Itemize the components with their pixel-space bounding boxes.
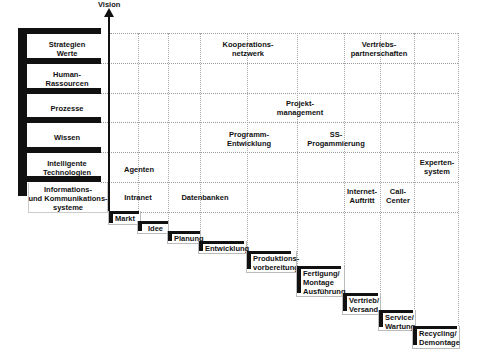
cell-datenbanken: Datenbanken (181, 193, 228, 202)
cell-kooperationsnetzwerk: Kooperations- netzwerk (223, 40, 274, 58)
cell-line: management (277, 108, 323, 117)
axis-label-vision: Vision (98, 0, 120, 9)
grid-line (168, 33, 169, 233)
row-bar (18, 176, 101, 182)
grid-line (140, 212, 458, 213)
cell-line: system (420, 167, 455, 176)
step-label-line: Service/ (385, 313, 415, 322)
row-label-prozesse: Prozesse (27, 104, 107, 113)
row-label-informations-kommunikationssysteme: Informations- und Kommunikations- system… (24, 185, 112, 212)
row-label-human-ressourcen: Human- Rassourcen (27, 70, 107, 88)
step-label: Service/ Wartung (385, 313, 415, 331)
cell-ss-programmierung: SS- Progammierung (307, 130, 365, 148)
step-label: Vertrieb/ Versand (349, 296, 379, 314)
step-label: Entwicklung (205, 244, 249, 253)
cell-internet-auftritt: Internet- Auftritt (347, 187, 377, 205)
cell-line: Kooperations- (223, 40, 274, 49)
arrow-up-icon (104, 8, 114, 17)
cell-line: partnerschaften (351, 49, 408, 58)
grid-line (101, 182, 458, 183)
step-vertrieb-versand: Vertrieb/ Versand (342, 293, 381, 315)
cell-programm-entwicklung: Programm- Entwicklung (227, 130, 271, 148)
cell-line: Call- (386, 187, 410, 196)
step-fertigung-montage: Fertigung/ Montage Ausführung (296, 266, 345, 297)
grid-line (380, 33, 381, 310)
step-recycling-demontage: Recycling/ Demontage (412, 326, 460, 349)
step-label-line: Demontage (419, 338, 460, 347)
step-label-line: Montage (303, 278, 346, 287)
row-label-intelligente-technologien: Intelligente Technologien (27, 159, 107, 177)
step-label-line: Ausführung (303, 287, 346, 296)
grid-line (101, 122, 458, 123)
row-label-line: Informations- (24, 185, 112, 194)
step-produktionsvorbereitung: Produktions- vorbereitung (246, 251, 297, 273)
row-bar (18, 58, 101, 64)
step-label-line: Recycling/ (419, 329, 460, 338)
cell-line: Experten- (420, 158, 455, 167)
step-label-line: Versand (349, 305, 379, 314)
step-label-line: Vertrieb/ (349, 296, 379, 305)
step-idee: Idee (137, 221, 169, 234)
row-label-line: Prozesse (27, 104, 107, 113)
step-label: Idee (148, 224, 163, 233)
grid-line (297, 33, 298, 268)
grid-line (458, 33, 459, 348)
row-bar (18, 28, 101, 34)
cell-call-center: Call- Center (386, 187, 410, 205)
row-label-wissen: Wissen (27, 133, 107, 142)
grid-line (200, 33, 201, 243)
cell-line: Intranet (124, 193, 152, 202)
grid-line (101, 93, 458, 94)
step-entwicklung: Entwicklung (198, 241, 247, 254)
grid-line (414, 33, 415, 327)
cell-expertensystem: Experten- system (420, 158, 455, 176)
row-label-line: Rassourcen (27, 79, 107, 88)
row-label-line: systeme (24, 203, 112, 212)
cell-agenten: Agenten (124, 165, 154, 174)
row-label-line: Strategien (27, 40, 107, 49)
grid-line (101, 63, 458, 64)
cell-line: Progammierung (307, 139, 365, 148)
grid-line (344, 33, 345, 294)
row-label-line: und Kommunikations- (24, 194, 112, 203)
step-label: Fertigung/ Montage Ausführung (303, 269, 346, 296)
row-label-strategien-werte: Strategien Werte (27, 40, 107, 58)
cell-line: Vertriebs- (351, 40, 408, 49)
step-label-line: Fertigung/ (303, 269, 346, 278)
cell-vertriebspartnerschaften: Vertriebs- partnerschaften (351, 40, 408, 58)
row-label-line: Werte (27, 49, 107, 58)
row-label-line: Intelligente (27, 159, 107, 168)
step-service-wartung: Service/ Wartung (378, 310, 416, 331)
cell-line: Programm- (227, 130, 271, 139)
cell-line: Projekt- (277, 99, 323, 108)
grid-line (101, 152, 458, 153)
cell-line: SS- (307, 130, 365, 139)
row-bar (18, 147, 101, 153)
cell-projektmanagement: Projekt- management (277, 99, 323, 117)
cell-intranet: Intranet (124, 193, 152, 202)
category-bracket (18, 28, 27, 196)
row-bar (18, 88, 101, 94)
cell-line: Datenbanken (181, 193, 228, 202)
step-label-line: Wartung (385, 322, 415, 331)
cell-line: netzwerk (223, 49, 274, 58)
cell-line: Auftritt (347, 196, 377, 205)
step-label: Markt (115, 214, 135, 223)
row-bar (18, 117, 101, 123)
step-label: Produktions- vorbereitung (253, 254, 299, 272)
row-label-line: Human- (27, 70, 107, 79)
vision-axis (108, 14, 110, 214)
cell-line: Center (386, 196, 410, 205)
step-label-line: vorbereitung (253, 263, 299, 272)
row-label-line: Wissen (27, 133, 107, 142)
step-label-line: Produktions- (253, 254, 299, 263)
cell-line: Internet- (347, 187, 377, 196)
grid-line (110, 33, 458, 34)
cell-line: Agenten (124, 165, 154, 174)
step-label: Recycling/ Demontage (419, 329, 460, 347)
step-planung: Planung (167, 231, 201, 244)
cell-line: Entwicklung (227, 139, 271, 148)
